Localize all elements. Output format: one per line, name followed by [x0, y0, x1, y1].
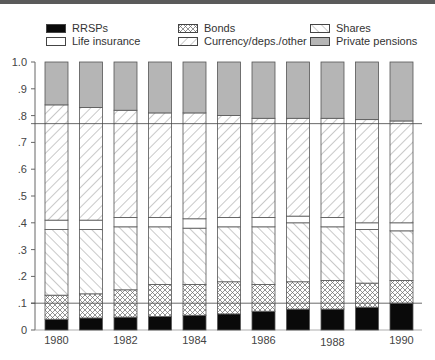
bar-segment-rrsps	[390, 303, 413, 330]
bar-segment-currency-deps-other	[218, 116, 241, 218]
bar-segment-rrsps	[287, 309, 310, 330]
bar-segment-currency-deps-other	[390, 121, 413, 223]
y-tick-label: .1	[18, 297, 27, 309]
bar-segment-shares	[390, 231, 413, 281]
bar-1981	[80, 62, 103, 330]
bar-segment-life-insurance	[287, 216, 310, 223]
bar-segment-life-insurance	[218, 217, 241, 226]
bar-segment-life-insurance	[252, 217, 275, 226]
y-tick-label: 0	[21, 324, 27, 336]
stacked-bar-chart: 0.1.2.3.4.5.6.7.8.91.0 19801982198419861…	[0, 0, 435, 360]
x-tick-label: 1980	[44, 334, 68, 346]
y-tick-label: .2	[18, 270, 27, 282]
y-tick-label: .7	[18, 136, 27, 148]
bar-segment-bonds	[287, 282, 310, 309]
bar-segment-life-insurance	[390, 223, 413, 231]
bar-segment-private-pensions	[356, 62, 379, 120]
y-tick-label: .6	[18, 163, 27, 175]
bar-segment-bonds	[218, 282, 241, 314]
bar-segment-currency-deps-other	[80, 108, 103, 221]
x-tick-label: 1982	[113, 334, 137, 346]
x-axis-labels: 198019821984198619881990	[44, 334, 413, 348]
bar-segment-shares	[321, 227, 344, 281]
y-tick-label: .9	[18, 83, 27, 95]
y-tick-label: .3	[18, 244, 27, 256]
bar-1989	[356, 62, 379, 330]
bar-segment-rrsps	[45, 319, 68, 330]
bar-1983	[149, 62, 172, 330]
bar-segment-shares	[183, 228, 206, 284]
bar-segment-rrsps	[321, 309, 344, 330]
bar-segment-life-insurance	[45, 220, 68, 229]
bar-segment-private-pensions	[218, 62, 241, 116]
bar-segment-bonds	[45, 295, 68, 319]
bar-segment-private-pensions	[183, 62, 206, 113]
y-tick-label: .8	[18, 110, 27, 122]
x-tick-label: 1984	[182, 334, 206, 346]
bar-segment-bonds	[321, 280, 344, 309]
bar-segment-shares	[287, 223, 310, 282]
bar-segment-rrsps	[218, 314, 241, 330]
y-tick-label: .4	[18, 217, 27, 229]
bar-segment-private-pensions	[114, 62, 137, 110]
bar-segment-life-insurance	[114, 217, 137, 226]
bar-1987	[287, 62, 310, 330]
bar-segment-rrsps	[149, 317, 172, 330]
bar-segment-life-insurance	[149, 217, 172, 226]
bar-segment-private-pensions	[390, 62, 413, 121]
bar-segment-currency-deps-other	[356, 120, 379, 223]
bar-segment-bonds	[390, 280, 413, 303]
bar-segment-private-pensions	[45, 62, 68, 105]
bar-segment-rrsps	[114, 317, 137, 330]
bar-segment-currency-deps-other	[321, 118, 344, 217]
bar-segment-private-pensions	[287, 62, 310, 118]
bar-segment-private-pensions	[149, 62, 172, 113]
bar-segment-private-pensions	[80, 62, 103, 108]
bar-segment-shares	[114, 227, 137, 290]
y-tick-label: 1.0	[12, 56, 27, 68]
x-tick-label: 1988	[320, 336, 344, 348]
bar-segment-private-pensions	[321, 62, 344, 118]
bar-segment-rrsps	[183, 315, 206, 330]
bar-1986	[252, 62, 275, 330]
bar-segment-currency-deps-other	[114, 110, 137, 217]
bar-segment-life-insurance	[80, 220, 103, 229]
bar-segment-life-insurance	[321, 217, 344, 226]
bar-segment-rrsps	[80, 318, 103, 330]
bar-segment-currency-deps-other	[287, 118, 310, 216]
bar-segment-rrsps	[252, 311, 275, 330]
bar-segment-bonds	[183, 284, 206, 315]
bar-segment-bonds	[149, 284, 172, 316]
x-tick-label: 1990	[389, 334, 413, 346]
bars-group	[45, 62, 413, 330]
bar-segment-shares	[149, 227, 172, 285]
bar-1990	[390, 62, 413, 330]
bar-segment-currency-deps-other	[252, 118, 275, 217]
bar-segment-currency-deps-other	[45, 105, 68, 220]
x-tick-label: 1986	[251, 334, 275, 346]
bar-segment-life-insurance	[356, 223, 379, 230]
bar-segment-private-pensions	[252, 62, 275, 118]
bar-1980	[45, 62, 68, 330]
bar-segment-bonds	[80, 294, 103, 318]
bar-1982	[114, 62, 137, 330]
bar-segment-shares	[218, 227, 241, 282]
bar-1985	[218, 62, 241, 330]
bar-segment-shares	[252, 227, 275, 285]
bar-segment-currency-deps-other	[183, 113, 206, 219]
bar-segment-life-insurance	[183, 219, 206, 228]
bar-segment-currency-deps-other	[149, 113, 172, 218]
bar-1984	[183, 62, 206, 330]
y-tick-label: .5	[18, 190, 27, 202]
bar-segment-bonds	[252, 284, 275, 311]
bar-segment-shares	[356, 230, 379, 284]
bar-segment-bonds	[356, 283, 379, 307]
bar-1988	[321, 62, 344, 330]
bar-segment-shares	[80, 230, 103, 294]
bar-segment-shares	[45, 230, 68, 296]
bar-segment-rrsps	[356, 307, 379, 330]
